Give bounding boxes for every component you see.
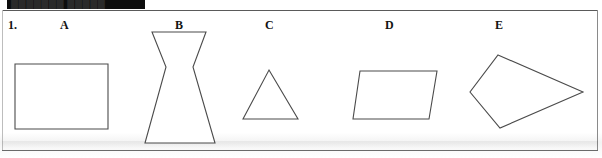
worksheet-page: ███████ █████ 1. A B C D E bbox=[0, 0, 602, 158]
figure-d-parallelogram bbox=[353, 71, 437, 119]
figure-e-kite-quadrilateral bbox=[470, 55, 583, 128]
figure-b-concave-hexagon bbox=[145, 32, 215, 143]
figure-a-rectangle bbox=[15, 64, 108, 129]
figures-canvas bbox=[0, 0, 602, 158]
figure-c-triangle bbox=[243, 70, 298, 119]
